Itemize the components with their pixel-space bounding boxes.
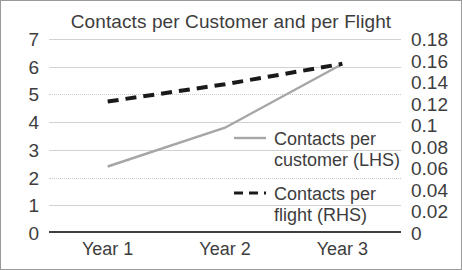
y-axis-right-labels: 00.020.040.060.080.10.120.140.160.18 [405,39,461,233]
y-axis-left-labels: 01234567 [1,39,45,233]
legend-solid-line-icon [233,129,267,147]
legend-label-line1: Contacts per [274,184,376,204]
legend-label-contacts-per-flight: Contacts per flight (RHS) [274,184,376,226]
y-tick-label-right: 0.18 [405,30,461,49]
legend-item-contacts-per-flight: Contacts per flight (RHS) [233,184,403,226]
y-tick-label-left: 3 [1,140,45,159]
legend-label-contacts-per-customer: Contacts per customer (LHS) [274,129,400,171]
y-tick-label-right: 0.1 [405,116,461,135]
chart-title: Contacts per Customer and per Flight [1,11,461,33]
y-tick-label-right: 0.08 [405,137,461,156]
x-tick-label: Year 1 [82,239,133,260]
y-tick-label-right: 0.06 [405,159,461,178]
y-tick-label-left: 1 [1,196,45,215]
y-tick-label-right: 0 [405,224,461,243]
x-tick-label: Year 2 [199,239,250,260]
y-tick-label-left: 0 [1,224,45,243]
y-tick-label-left: 5 [1,85,45,104]
legend-label-line2: flight (RHS) [274,205,367,225]
y-tick-label-left: 7 [1,30,45,49]
y-tick-label-left: 6 [1,57,45,76]
chart-container: Contacts per Customer and per Flight 012… [0,0,462,270]
y-tick-label-right: 0.12 [405,94,461,113]
y-tick-label-right: 0.14 [405,73,461,92]
y-tick-label-left: 4 [1,113,45,132]
x-axis-labels: Year 1Year 2Year 3 [49,237,401,265]
legend-label-line1: Contacts per [274,129,376,149]
legend-item-contacts-per-customer: Contacts per customer (LHS) [233,129,403,171]
x-tick-label: Year 3 [317,239,368,260]
y-tick-label-right: 0.02 [405,202,461,221]
y-tick-label-right: 0.04 [405,180,461,199]
y-tick-label-right: 0.16 [405,51,461,70]
y-tick-label-left: 2 [1,168,45,187]
legend-label-line2: customer (LHS) [274,150,400,170]
chart-legend: Contacts per customer (LHS) Contacts per… [233,129,403,239]
legend-dashed-line-icon [233,184,267,202]
